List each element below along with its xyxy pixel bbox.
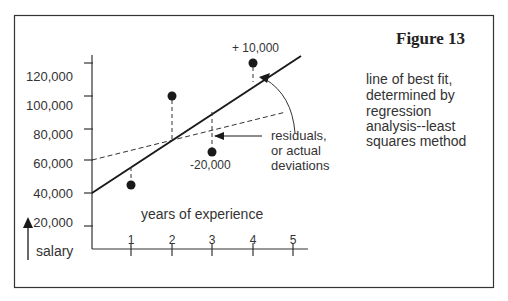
data-point: [127, 181, 136, 190]
curved-arrow-icon: [265, 79, 295, 133]
description-line: determined by: [366, 87, 455, 103]
figure-title: Figure 13: [396, 29, 465, 48]
y-axis-label: salary: [36, 243, 73, 259]
residuals-label-line: residuals,: [271, 128, 327, 143]
up-arrow-icon: [23, 217, 33, 260]
x-tick-label: 5: [290, 233, 297, 247]
x-tick-label: 1: [128, 233, 135, 247]
y-tick-labels: 120,000 100,000 80,000 60,000 40,000 20,…: [26, 69, 73, 230]
y-tick-label: 120,000: [26, 69, 73, 84]
residuals-label-line: deviations: [271, 158, 330, 173]
data-point: [249, 59, 258, 68]
y-axis: [84, 55, 93, 249]
description-line: squares method: [366, 133, 466, 149]
residual-positive-label: + 10,000: [232, 41, 279, 55]
data-point: [168, 92, 177, 101]
x-axis: [92, 243, 308, 256]
residuals-label-line: or actual: [271, 143, 321, 158]
x-axis-label: years of experience: [141, 206, 263, 222]
data-point: [208, 148, 217, 157]
residuals-callout: residuals, or actual deviations: [215, 73, 330, 173]
figure-13: Figure 13 line of best fit, determined b…: [0, 0, 508, 301]
x-tick-labels: 1 2 3 4 5: [128, 233, 297, 247]
description-line: regression: [366, 103, 431, 119]
description-line: line of best fit,: [366, 71, 452, 87]
x-tick-label: 4: [250, 233, 257, 247]
x-tick-label: 3: [209, 233, 216, 247]
y-tick-label: 20,000: [33, 215, 73, 230]
y-tick-label: 60,000: [33, 156, 73, 171]
regression-line: [92, 56, 301, 193]
y-tick-label: 100,000: [26, 98, 73, 113]
y-tick-label: 80,000: [33, 127, 73, 142]
description-text: line of best fit, determined by regressi…: [366, 71, 466, 149]
description-line: analysis--least: [366, 118, 456, 134]
residual-negative-label: -20,000: [190, 158, 231, 172]
y-tick-label: 40,000: [33, 186, 73, 201]
x-tick-label: 2: [169, 233, 176, 247]
